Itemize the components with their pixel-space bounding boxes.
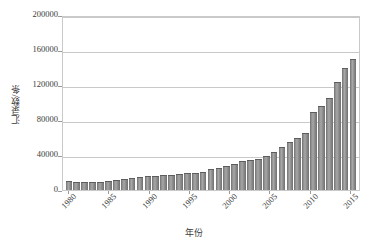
bar bbox=[152, 176, 159, 190]
x-axis-title: 年份 bbox=[0, 228, 369, 239]
bar bbox=[216, 168, 223, 190]
bar bbox=[239, 161, 246, 190]
bar bbox=[145, 176, 152, 190]
bar bbox=[302, 133, 309, 190]
bar-chart: 汇录数/条 04000080000120000160000200000 1980… bbox=[0, 0, 369, 252]
bar bbox=[97, 182, 104, 190]
bar bbox=[168, 175, 175, 190]
bar bbox=[160, 175, 167, 190]
bar bbox=[66, 181, 73, 190]
x-axis-tick-label: 1980 bbox=[60, 192, 79, 211]
y-axis-tick-labels: 04000080000120000160000200000 bbox=[22, 14, 58, 191]
x-axis-tick-label: 1990 bbox=[140, 192, 159, 211]
bar bbox=[326, 98, 333, 190]
bar bbox=[247, 160, 254, 190]
bar bbox=[121, 179, 128, 190]
bar bbox=[73, 182, 80, 190]
bar bbox=[287, 142, 294, 190]
bar bbox=[342, 68, 349, 191]
y-axis-tick-label: 40000 bbox=[18, 150, 58, 159]
bar-series bbox=[63, 17, 359, 190]
bar bbox=[334, 82, 341, 191]
bar bbox=[129, 178, 136, 190]
bar bbox=[310, 112, 317, 190]
y-axis-tick-label: 0 bbox=[18, 185, 58, 194]
bar bbox=[294, 138, 301, 191]
bar bbox=[137, 177, 144, 190]
bar bbox=[200, 172, 207, 190]
y-axis-tick-label: 200000 bbox=[18, 10, 58, 19]
bar bbox=[279, 147, 286, 190]
x-axis-tick-label: 2000 bbox=[221, 192, 240, 211]
bar bbox=[208, 169, 215, 190]
bar bbox=[176, 174, 183, 190]
bar bbox=[184, 173, 191, 190]
x-axis-tick-label: 1985 bbox=[100, 192, 119, 211]
x-axis-tick-labels: 19801985199019952000200520102015 bbox=[62, 192, 360, 226]
bar bbox=[255, 159, 262, 191]
bar bbox=[223, 166, 230, 190]
y-axis-tick-label: 160000 bbox=[18, 45, 58, 54]
bar bbox=[263, 156, 270, 190]
bar bbox=[271, 152, 278, 190]
x-axis-title-text: 年份 bbox=[185, 228, 203, 239]
y-axis-tick-label: 80000 bbox=[18, 115, 58, 124]
y-axis-tick-label: 120000 bbox=[18, 80, 58, 89]
bar bbox=[231, 164, 238, 190]
x-axis-tick-label: 1995 bbox=[181, 192, 200, 211]
bar bbox=[105, 181, 112, 190]
bar bbox=[318, 106, 325, 190]
bar bbox=[350, 59, 357, 190]
bar bbox=[113, 180, 120, 190]
bar bbox=[192, 173, 199, 190]
x-axis-tick-label: 2005 bbox=[261, 192, 280, 211]
bar bbox=[81, 182, 88, 190]
x-axis-tick-label: 2010 bbox=[301, 192, 320, 211]
plot-area bbox=[62, 16, 360, 191]
bar bbox=[89, 182, 96, 190]
x-axis-tick-label: 2015 bbox=[342, 192, 361, 211]
